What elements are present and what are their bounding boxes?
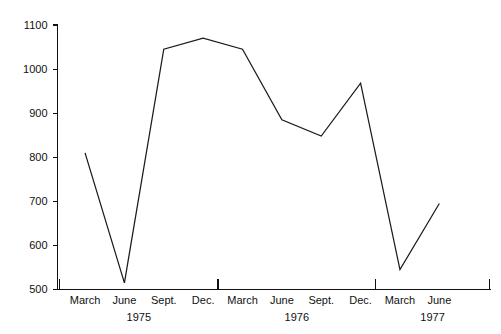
y-tick-label: 600 bbox=[29, 239, 47, 251]
y-tick-label: 500 bbox=[29, 283, 47, 295]
x-tick-label: June bbox=[270, 294, 294, 306]
x-axis-year-labels: 197519761977 bbox=[127, 311, 445, 323]
data-series-group bbox=[85, 38, 439, 283]
y-tick-label: 700 bbox=[29, 195, 47, 207]
x-tick-label: March bbox=[227, 294, 258, 306]
x-tick-label: March bbox=[385, 294, 416, 306]
y-tick-label: 900 bbox=[29, 107, 47, 119]
x-tick-label: June bbox=[112, 294, 136, 306]
data-line-series-1 bbox=[85, 38, 439, 283]
x-tick-label: June bbox=[427, 294, 451, 306]
y-tick-label: 800 bbox=[29, 151, 47, 163]
y-axis: 50060070080090010001100 bbox=[23, 19, 57, 296]
y-axis-tick-labels: 50060070080090010001100 bbox=[23, 19, 47, 296]
line-chart: 50060070080090010001100 MarchJuneSept.De… bbox=[0, 0, 501, 334]
x-tick-label: March bbox=[70, 294, 101, 306]
y-tick-label: 1000 bbox=[23, 63, 47, 75]
x-year-label: 1976 bbox=[285, 311, 309, 323]
x-axis: MarchJuneSept.Dec.MarchJuneSept.Dec.Marc… bbox=[58, 279, 491, 323]
x-tick-label: Sept. bbox=[151, 294, 177, 306]
y-tick-label: 1100 bbox=[24, 19, 48, 31]
chart-canvas: 50060070080090010001100 MarchJuneSept.De… bbox=[0, 0, 501, 334]
x-year-label: 1975 bbox=[127, 311, 151, 323]
x-year-label: 1977 bbox=[420, 311, 444, 323]
x-tick-label: Dec. bbox=[192, 294, 215, 306]
x-tick-label: Dec. bbox=[349, 294, 372, 306]
x-tick-label: Sept. bbox=[308, 294, 334, 306]
x-axis-tick-labels: MarchJuneSept.Dec.MarchJuneSept.Dec.Marc… bbox=[70, 294, 451, 306]
y-axis-ticks bbox=[53, 25, 58, 290]
